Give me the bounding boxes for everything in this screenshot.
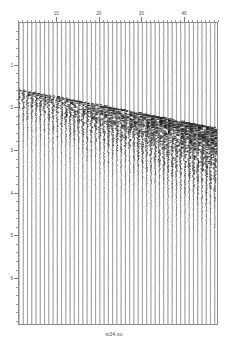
top-axis: 10203040 <box>18 0 218 22</box>
left-axis-tick-label: 2 <box>10 105 13 110</box>
seismic-wiggle-canvas <box>19 23 218 325</box>
top-axis-tick-label: 30 <box>139 11 144 16</box>
top-axis-minor-tick <box>218 20 219 23</box>
top-axis-tick-label: 10 <box>54 11 59 16</box>
left-axis-tick-label: 4 <box>10 190 13 195</box>
left-axis-tick-label: 5 <box>10 233 13 238</box>
left-axis-tick-label: 6 <box>10 276 13 281</box>
top-axis-tick-label: 20 <box>96 11 101 16</box>
left-axis-tick-label: 1 <box>10 62 13 67</box>
top-axis-tick-label: 40 <box>181 11 186 16</box>
plot-area <box>18 22 218 325</box>
figure-caption: st34.su <box>0 331 228 337</box>
left-axis: 123456 <box>0 22 18 325</box>
seismic-figure: 10203040 123456 st34.su <box>0 0 228 344</box>
left-axis-tick-label: 3 <box>10 148 13 153</box>
